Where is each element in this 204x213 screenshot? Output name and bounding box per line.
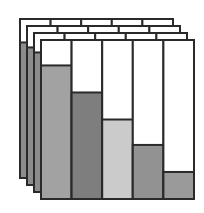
bar-5: [163, 172, 194, 199]
bar-3: [102, 120, 133, 200]
bar-2: [72, 92, 103, 199]
stacked-bar-chart-icon: [0, 0, 204, 213]
bar-4: [133, 145, 164, 199]
bar-1: [41, 65, 72, 199]
